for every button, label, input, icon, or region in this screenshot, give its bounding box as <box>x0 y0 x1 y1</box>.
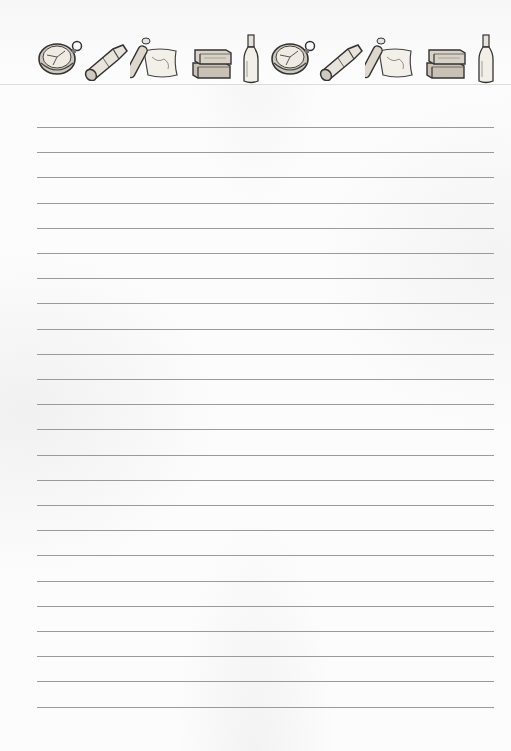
ruled-line <box>37 152 494 153</box>
ruled-lines-area <box>37 0 494 751</box>
ruled-line <box>37 606 494 607</box>
ruled-line <box>37 127 494 128</box>
ruled-line <box>37 253 494 254</box>
ruled-line <box>37 429 494 430</box>
ruled-line <box>37 505 494 506</box>
ruled-line <box>37 303 494 304</box>
ruled-line <box>37 228 494 229</box>
stationery-page <box>0 0 511 751</box>
ruled-line <box>37 203 494 204</box>
ruled-line <box>37 329 494 330</box>
ruled-line <box>37 379 494 380</box>
ruled-line <box>37 681 494 682</box>
ruled-line <box>37 656 494 657</box>
ruled-line <box>37 530 494 531</box>
ruled-line <box>37 177 494 178</box>
ruled-line <box>37 278 494 279</box>
ruled-line <box>37 707 494 708</box>
ruled-line <box>37 455 494 456</box>
ruled-line <box>37 555 494 556</box>
ruled-line <box>37 631 494 632</box>
ruled-line <box>37 480 494 481</box>
ruled-line <box>37 581 494 582</box>
ruled-line <box>37 354 494 355</box>
ruled-line <box>37 404 494 405</box>
